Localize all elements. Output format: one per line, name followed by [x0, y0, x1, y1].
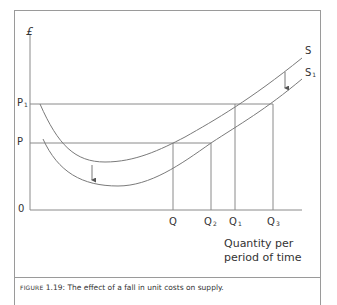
caption-prefix: FIGURE	[20, 284, 43, 291]
quantity-label-q3: Q3	[267, 217, 280, 227]
x-axis-title-line1: Quantity per	[224, 237, 302, 251]
price-label-p1: P1	[17, 98, 28, 108]
y-axis-label: £	[26, 26, 33, 37]
quantity-label-q2: Q2	[204, 217, 217, 227]
supply-curve-s	[40, 58, 302, 162]
caption-number: 1.19:	[46, 283, 65, 292]
x-axis-title-line2: period of time	[224, 251, 302, 265]
caption-text: The effect of a fall in unit costs on su…	[67, 283, 223, 292]
origin-label: 0	[18, 204, 24, 214]
curve-label-s1: S1	[305, 68, 316, 78]
quantity-label-q: Q	[169, 217, 177, 227]
curve-label-s: S	[305, 46, 311, 56]
x-axis-title: Quantity per period of time	[224, 237, 302, 265]
quantity-label-q1: Q1	[229, 217, 242, 227]
price-label-p: P	[17, 137, 23, 147]
figure-caption: FIGURE 1.19: The effect of a fall in uni…	[20, 283, 224, 292]
